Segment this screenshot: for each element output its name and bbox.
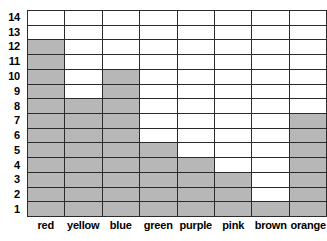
- grid-cell-empty: [252, 114, 289, 129]
- plot-area: [27, 10, 327, 217]
- grid-cell-filled: [28, 85, 65, 100]
- grid-cell-filled: [28, 40, 65, 55]
- grid-row: [28, 85, 327, 100]
- grid-cell-empty: [290, 40, 327, 55]
- grid-cell-filled: [290, 173, 327, 188]
- y-axis-tick: 2: [0, 187, 24, 202]
- grid-cell-filled: [65, 188, 102, 203]
- grid-cell-filled: [140, 173, 177, 188]
- grid-cell-filled: [178, 202, 215, 217]
- grid-cell-filled: [290, 158, 327, 173]
- grid-cell-empty: [215, 143, 252, 158]
- grid-cell-empty: [252, 11, 289, 26]
- grid-cell-empty: [140, 11, 177, 26]
- x-axis-tick-brown: brown: [252, 219, 290, 239]
- grid-row: [28, 70, 327, 85]
- grid-cell-filled: [140, 143, 177, 158]
- grid-cell-filled: [103, 173, 140, 188]
- grid-row: [28, 99, 327, 114]
- grid-cell-filled: [103, 99, 140, 114]
- y-axis: 1413121110987654321: [0, 10, 24, 217]
- y-axis-tick: 3: [0, 173, 24, 188]
- grid-cell-empty: [178, 70, 215, 85]
- grid-cell-empty: [178, 26, 215, 41]
- grid-cell-empty: [140, 114, 177, 129]
- y-axis-tick: 4: [0, 158, 24, 173]
- grid-cell-empty: [140, 85, 177, 100]
- grid-cell-empty: [215, 114, 252, 129]
- grid-cell-filled: [140, 202, 177, 217]
- grid-cell-filled: [178, 188, 215, 203]
- grid-cell-filled: [290, 202, 327, 217]
- grid-cell-empty: [178, 99, 215, 114]
- grid-row: [28, 173, 327, 188]
- x-axis-tick-yellow: yellow: [65, 219, 103, 239]
- grid-cell-filled: [28, 114, 65, 129]
- grid-cell-empty: [252, 143, 289, 158]
- y-axis-tick: 8: [0, 99, 24, 114]
- grid-cell-empty: [103, 40, 140, 55]
- y-axis-tick: 10: [0, 69, 24, 84]
- grid-cell-empty: [65, 55, 102, 70]
- grid-cell-filled: [28, 99, 65, 114]
- y-axis-tick: 6: [0, 128, 24, 143]
- grid-cell-empty: [215, 11, 252, 26]
- grid-cell-empty: [140, 55, 177, 70]
- grid-cell-empty: [215, 40, 252, 55]
- grid-cell-empty: [178, 11, 215, 26]
- grid-cell-empty: [252, 188, 289, 203]
- y-axis-tick: 11: [0, 54, 24, 69]
- grid-cell-filled: [103, 70, 140, 85]
- grid-cell-filled: [215, 202, 252, 217]
- grid-cell-filled: [103, 143, 140, 158]
- grid-cell-filled: [178, 173, 215, 188]
- grid-cell-empty: [65, 26, 102, 41]
- grid-cell-empty: [252, 173, 289, 188]
- grid-cell-filled: [290, 114, 327, 129]
- grid-row: [28, 143, 327, 158]
- grid-row: [28, 26, 327, 41]
- grid-cell-empty: [140, 26, 177, 41]
- grid-cell-filled: [290, 188, 327, 203]
- grid-cell-empty: [178, 55, 215, 70]
- grid-cell-empty: [215, 70, 252, 85]
- grid-cell-empty: [290, 99, 327, 114]
- grid-cell-empty: [252, 158, 289, 173]
- grid-cell-empty: [290, 11, 327, 26]
- grid-row: [28, 114, 327, 129]
- grid-cell-filled: [28, 158, 65, 173]
- grid-cell-filled: [65, 99, 102, 114]
- grid-cell-empty: [290, 26, 327, 41]
- y-axis-tick: 7: [0, 113, 24, 128]
- grid-cell-filled: [28, 188, 65, 203]
- grid-cell-empty: [103, 11, 140, 26]
- grid-row: [28, 129, 327, 144]
- grid-cell-empty: [65, 70, 102, 85]
- x-axis-tick-pink: pink: [215, 219, 253, 239]
- y-axis-tick: 1: [0, 202, 24, 217]
- grid-cell-filled: [103, 188, 140, 203]
- grid-cell-filled: [252, 202, 289, 217]
- grid-cell-filled: [290, 143, 327, 158]
- grid-cell-empty: [215, 26, 252, 41]
- grid-cell-empty: [178, 114, 215, 129]
- grid-cell-filled: [28, 70, 65, 85]
- grid-cell-empty: [290, 70, 327, 85]
- grid-cell-filled: [140, 158, 177, 173]
- grid-cell-empty: [252, 55, 289, 70]
- grid-cell-empty: [215, 129, 252, 144]
- grid-cell-filled: [65, 158, 102, 173]
- grid-cell-empty: [65, 11, 102, 26]
- grid-cell-empty: [215, 158, 252, 173]
- grid-cell-empty: [28, 26, 65, 41]
- grid-cell-empty: [215, 85, 252, 100]
- y-axis-tick: 12: [0, 40, 24, 55]
- y-axis-tick: 5: [0, 143, 24, 158]
- x-axis-tick-orange: orange: [290, 219, 327, 239]
- grid-cell-filled: [103, 114, 140, 129]
- grid-cell-filled: [28, 129, 65, 144]
- grid-row: [28, 11, 327, 26]
- grid-row: [28, 55, 327, 70]
- y-axis-tick: 13: [0, 25, 24, 40]
- grid-cell-filled: [65, 173, 102, 188]
